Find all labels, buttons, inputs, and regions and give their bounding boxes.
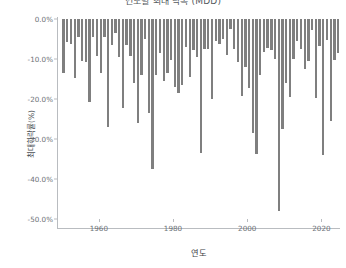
bar: [244, 19, 246, 67]
bar: [100, 19, 102, 73]
x-tick-label: 2000: [238, 224, 256, 233]
bar: [318, 19, 320, 46]
bar: [170, 19, 172, 60]
bar: [77, 19, 79, 37]
bar: [222, 19, 224, 39]
bar: [88, 19, 90, 102]
bar: [215, 19, 217, 41]
bar: [196, 19, 198, 57]
bar: [103, 19, 105, 37]
bar: [296, 19, 298, 41]
bar: [111, 19, 113, 45]
x-tick-mark: [99, 219, 100, 222]
bar: [155, 19, 157, 75]
bar: [326, 19, 328, 40]
bar: [274, 19, 276, 59]
bar: [181, 19, 183, 85]
bar: [81, 19, 83, 61]
y-tick-mark: [54, 59, 57, 60]
y-tick-mark: [54, 179, 57, 180]
bar: [137, 19, 139, 123]
bar: [70, 19, 72, 44]
bar: [237, 19, 239, 62]
bar: [66, 19, 68, 42]
y-tick-mark: [54, 19, 57, 20]
bar: [285, 19, 287, 83]
bar: [148, 19, 150, 113]
plot-area: 0.0%-10.0%-20.0%-30.0%-40.0%-50.0% 19601…: [58, 19, 340, 219]
bar: [300, 19, 302, 49]
bar: [248, 19, 250, 88]
x-tick-label: 2020: [312, 224, 330, 233]
x-tick-mark: [247, 219, 248, 222]
bar: [218, 19, 220, 44]
bar: [140, 19, 142, 75]
bar: [125, 19, 127, 45]
x-tick-label: 1960: [90, 224, 108, 233]
bar: [163, 19, 165, 81]
bar: [62, 19, 64, 73]
bar: [226, 19, 228, 55]
x-tick-label: 1980: [164, 224, 182, 233]
bar: [159, 19, 161, 53]
y-tick-mark: [54, 219, 57, 220]
chart-figure: 연도별 최대 낙폭 (MDD) 0.0%-10.0%-20.0%-30.0%-4…: [0, 0, 346, 268]
bar: [122, 19, 124, 108]
bar: [92, 19, 94, 37]
y-tick-mark: [54, 139, 57, 140]
bar: [337, 19, 339, 53]
bar: [304, 19, 306, 69]
bar: [96, 19, 98, 56]
bar: [114, 19, 116, 33]
chart-title: 연도별 최대 낙폭 (MDD): [0, 0, 346, 7]
bar: [129, 19, 131, 56]
y-axis-label: 최대하락률(%): [25, 110, 36, 158]
bar: [192, 19, 194, 50]
bar: [185, 19, 187, 47]
bar: [189, 19, 191, 77]
bar: [278, 19, 280, 211]
bar: [85, 19, 87, 62]
bar: [233, 19, 235, 49]
bar: [307, 19, 309, 61]
bar: [259, 19, 261, 75]
bar: [263, 19, 265, 52]
bar: [241, 19, 243, 96]
x-tick-mark: [321, 219, 322, 222]
bar: [322, 19, 324, 155]
bar: [311, 19, 313, 30]
bar: [174, 19, 176, 87]
bar: [229, 19, 231, 29]
bar: [333, 19, 335, 60]
bar: [315, 19, 317, 98]
bar: [281, 19, 283, 129]
bar: [74, 19, 76, 78]
bar: [200, 19, 202, 153]
bar: [144, 19, 146, 39]
bar: [207, 19, 209, 49]
bar: [330, 19, 332, 121]
bar: [266, 19, 268, 48]
bar: [270, 19, 272, 50]
bar: [177, 19, 179, 93]
bar: [151, 19, 153, 169]
bar: [255, 19, 257, 154]
y-tick-mark: [54, 99, 57, 100]
bar: [211, 19, 213, 99]
bar: [289, 19, 291, 97]
bar: [252, 19, 254, 133]
bar: [166, 19, 168, 73]
bar: [292, 19, 294, 59]
bar: [133, 19, 135, 83]
x-tick-mark: [173, 219, 174, 222]
bar: [203, 19, 205, 49]
bar: [118, 19, 120, 57]
bar: [107, 19, 109, 127]
x-axis-label: 연도: [58, 246, 340, 258]
